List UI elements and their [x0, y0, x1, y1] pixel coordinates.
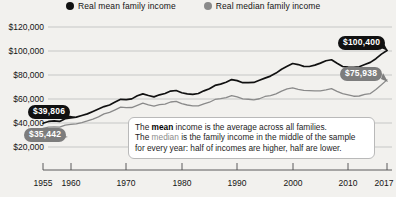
x-tick-label: 1955 — [34, 178, 53, 188]
x-axis-ticks — [43, 163, 392, 170]
callout-mean-end: $100,400 — [338, 36, 385, 50]
annotation-text: income is the average across all familie… — [173, 122, 327, 132]
annotation-text: is the family income in the middle of th… — [179, 132, 356, 142]
x-tick-label: 2017 — [375, 178, 394, 188]
annotation-line-1: The mean income is the average across al… — [135, 122, 368, 132]
series-line-mean — [43, 51, 387, 124]
annotation-text: The — [135, 122, 152, 132]
annotation-box: The mean income is the average across al… — [128, 117, 375, 159]
x-tick-label: 1960 — [62, 178, 81, 188]
annotation-text: The — [135, 132, 152, 142]
callout-mean-start: $39,806 — [28, 105, 70, 119]
annotation-line-3: for every year: half of incomes are high… — [135, 143, 368, 153]
callout-median-start: $35,442 — [24, 128, 66, 142]
x-tick-label: 1980 — [173, 178, 192, 188]
annotation-line-2: The median is the family income in the m… — [135, 132, 368, 142]
annotation-gray-median: median — [152, 132, 179, 142]
x-tick-label: 2010 — [339, 178, 358, 188]
annotation-bold-mean: mean — [152, 122, 174, 132]
chart-root: Real mean family income Real median fami… — [0, 0, 396, 197]
x-tick-label: 1970 — [117, 178, 136, 188]
callout-median-end: $75,938 — [340, 67, 382, 81]
plot-area — [0, 0, 396, 197]
x-tick-label: 2000 — [284, 178, 303, 188]
x-tick-label: 1990 — [228, 178, 247, 188]
